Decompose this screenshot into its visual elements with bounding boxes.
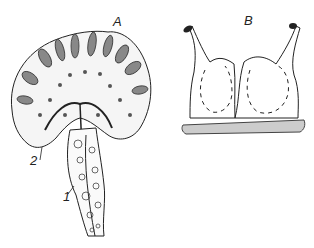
panel-a-label: A [113, 14, 122, 29]
annotation-label-2: 2 [30, 153, 37, 168]
panel-b-tips [182, 23, 297, 34]
panel-b-label: B [244, 13, 253, 28]
panel-a-stalk [68, 128, 105, 236]
figure-illustration [0, 0, 314, 248]
panel-b-body [182, 26, 305, 134]
annotation-label-1: 1 [63, 189, 70, 204]
